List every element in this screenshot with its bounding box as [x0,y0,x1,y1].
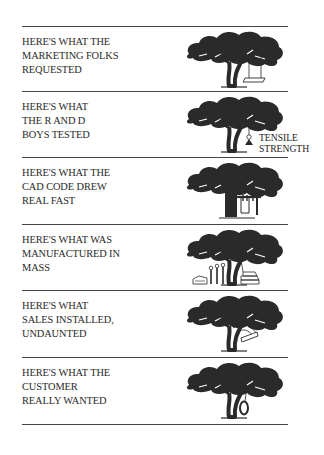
annotation-line: STRENGTH [259,143,309,154]
tree-tangled-swing-icon [185,290,285,356]
panel-marketing: HERE'S WHAT THE MARKETING FOLKS REQUESTE… [0,26,324,92]
tree-plank-swing-icon [185,26,285,92]
caption-line: HERE'S WHAT [22,299,114,313]
panel-cad: HERE'S WHAT THE CAD CODE DREW REAL FAST [0,157,324,223]
panel-sales: HERE'S WHAT SALES INSTALLED, UNDAUNTED [0,290,324,356]
caption: HERE'S WHAT THE CUSTOMER REALLY WANTED [22,366,110,408]
tensile-strength-label: TENSILE STRENGTH [259,132,309,154]
caption-line: HERE'S WHAT [22,100,90,114]
caption-line: HERE'S WHAT WAS [22,233,120,247]
divider [22,424,288,425]
caption-line: MANUFACTURED IN [22,247,120,261]
caption-line: THE R AND D [22,114,90,128]
caption-line: REALLY WANTED [22,394,110,408]
caption-line: CAD CODE DREW [22,180,110,194]
panel-manufactured: HERE'S WHAT WAS MANUFACTURED IN MASS [0,224,324,290]
caption-line: SALES INSTALLED, [22,313,114,327]
tree-parts-pile-icon [185,224,285,290]
caption-line: MASS [22,261,120,275]
caption-line: BOYS TESTED [22,128,90,142]
caption: HERE'S WHAT SALES INSTALLED, UNDAUNTED [22,299,114,341]
caption-line: HERE'S WHAT THE [22,166,110,180]
caption: HERE'S WHAT WAS MANUFACTURED IN MASS [22,233,120,275]
panel-r-and-d: HERE'S WHAT THE R AND D BOYS TESTED TENS… [0,91,324,157]
caption-line: HERE'S WHAT THE [22,35,118,49]
caption-line: UNDAUNTED [22,327,114,341]
caption-line: HERE'S WHAT THE [22,366,110,380]
panel-customer: HERE'S WHAT THE CUSTOMER REALLY WANTED [0,357,324,423]
caption: HERE'S WHAT THE R AND D BOYS TESTED [22,100,90,142]
caption-line: CUSTOMER [22,380,110,394]
tree-frame-swing-icon [185,157,285,223]
annotation-line: TENSILE [259,132,309,143]
caption-line: REQUESTED [22,63,118,77]
caption: HERE'S WHAT THE MARKETING FOLKS REQUESTE… [22,35,118,77]
tree-tire-swing-icon [185,357,285,423]
caption-line: MARKETING FOLKS [22,49,118,63]
caption-line: REAL FAST [22,194,110,208]
caption: HERE'S WHAT THE CAD CODE DREW REAL FAST [22,166,110,208]
